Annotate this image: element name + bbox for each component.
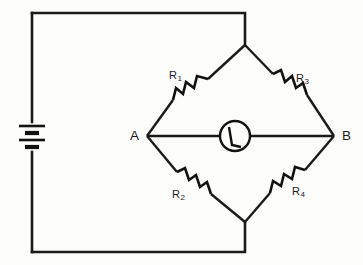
resistor-label-r2-subscript: 2 — [180, 193, 185, 202]
resistor-label-r1-subscript: 1 — [177, 74, 182, 83]
resistor-label-r1-name: R — [169, 69, 177, 81]
r1-lead-lower — [147, 100, 173, 136]
node-label-b: B — [342, 129, 351, 143]
r2-lead-lower — [211, 194, 245, 222]
resistor-label-r3-subscript: 3 — [304, 77, 309, 86]
r4-lead-upper — [305, 136, 334, 170]
bridge-arm-r4 — [245, 136, 334, 222]
r3-lead-upper — [245, 45, 273, 74]
r2-lead-upper — [147, 136, 177, 172]
top-supply-wire — [32, 13, 245, 45]
bottom-supply-wire — [32, 222, 245, 252]
node-label-a: A — [130, 129, 139, 143]
resistor-label-r3-name: R — [296, 72, 304, 84]
r1-lead-upper — [208, 45, 245, 79]
circuit-schematic — [0, 0, 363, 265]
resistor-label-r1: R1 — [169, 70, 182, 83]
resistor-label-r4: R4 — [292, 186, 305, 199]
resistor-label-r3: R3 — [296, 73, 309, 86]
resistor-label-r4-name: R — [292, 185, 300, 197]
wheatstone-bridge-figure: A B R1 R3 R2 R4 — [0, 0, 363, 265]
bridge-branch — [147, 121, 334, 151]
resistor-label-r2-name: R — [172, 188, 180, 200]
r3-lead-lower — [307, 95, 334, 136]
r4-lead-lower — [245, 193, 270, 222]
resistor-label-r2: R2 — [172, 189, 185, 202]
bridge-arm-r3 — [245, 45, 334, 136]
battery-symbol — [19, 126, 45, 147]
resistor-label-r4-subscript: 4 — [300, 190, 305, 199]
